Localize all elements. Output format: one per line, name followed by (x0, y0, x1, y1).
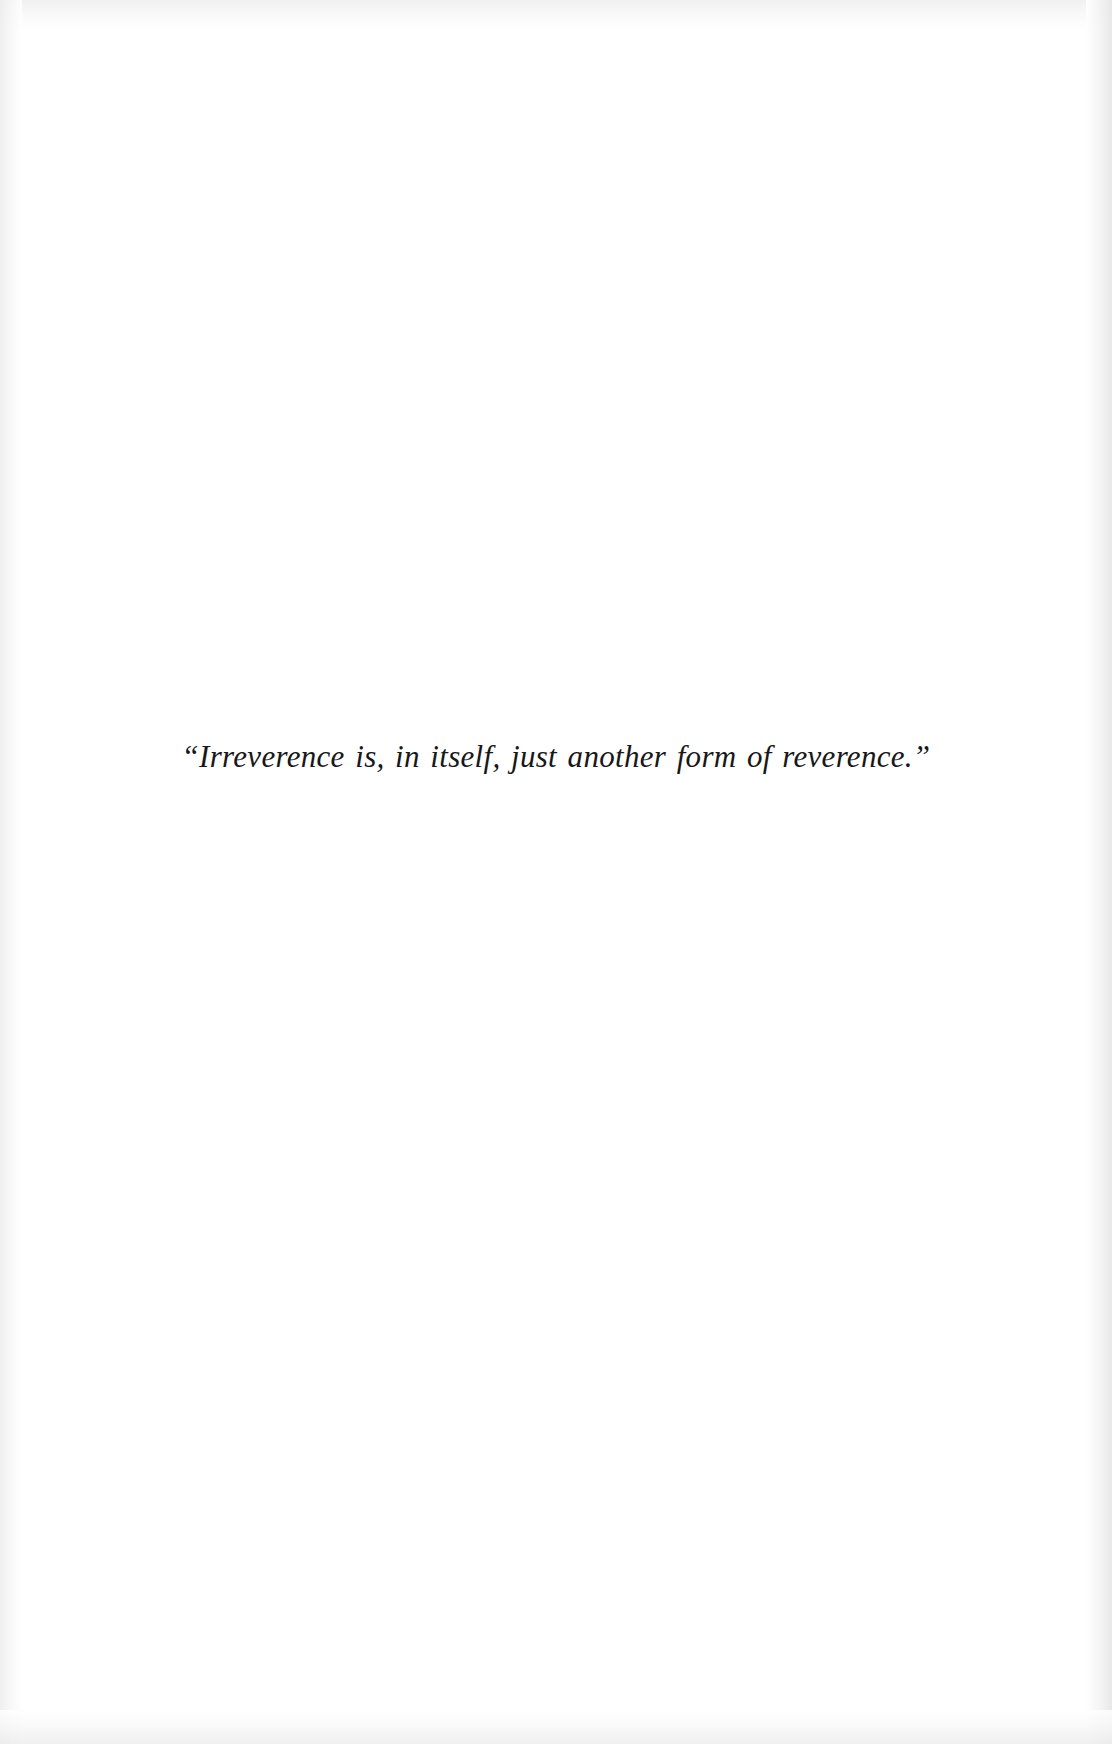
scan-edge-bottom (0, 1710, 1112, 1744)
book-page: “Irreverence is, in itself, just another… (0, 0, 1112, 1744)
scan-edge-right (1086, 0, 1112, 1744)
scan-edge-top (0, 0, 1112, 30)
epigraph-quote: “Irreverence is, in itself, just another… (182, 735, 931, 779)
epigraph-block: “Irreverence is, in itself, just another… (0, 735, 1112, 779)
scan-edge-left (0, 0, 22, 1744)
